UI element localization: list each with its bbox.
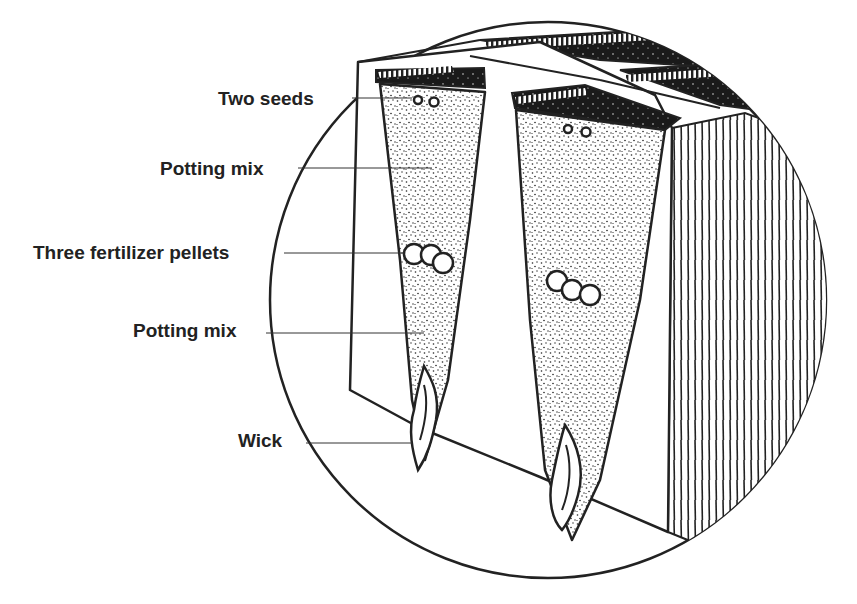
label-two-seeds: Two seeds [218, 88, 314, 110]
tray-illustration [0, 0, 857, 604]
label-wick: Wick [238, 430, 282, 452]
diagram-canvas: Two seeds Potting mix Three fertilizer p… [0, 0, 857, 604]
ribbed-side-face [668, 113, 845, 604]
label-fertilizer-pellets: Three fertilizer pellets [33, 242, 229, 264]
label-potting-mix-top: Potting mix [160, 158, 263, 180]
label-potting-mix-bottom: Potting mix [133, 320, 236, 342]
